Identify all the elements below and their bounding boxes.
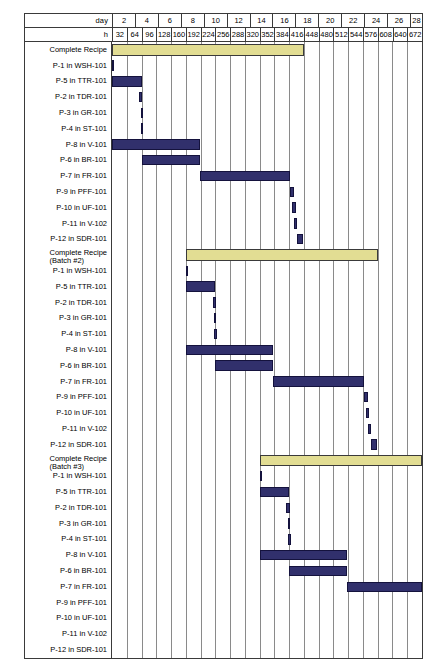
- task-bar[interactable]: [347, 582, 422, 592]
- day-tick-10: 10: [204, 14, 227, 27]
- row-label: P-6 in BR-101: [60, 563, 107, 579]
- summary-bar[interactable]: [186, 249, 378, 261]
- day-tick-2: 2: [112, 14, 135, 27]
- hour-tick-192: 192: [186, 28, 201, 41]
- task-bar[interactable]: [368, 424, 372, 434]
- gantt-row-label-cell: P-8 in V-101: [25, 342, 111, 358]
- gantt-row: [112, 389, 422, 405]
- task-bar[interactable]: [288, 518, 290, 528]
- gantt-row: [112, 216, 422, 232]
- gantt-row: [112, 137, 422, 153]
- summary-bar[interactable]: [260, 455, 422, 467]
- hour-tick-160: 160: [171, 28, 186, 41]
- task-bar[interactable]: [366, 408, 370, 418]
- day-tick-14: 14: [250, 14, 273, 27]
- row-label: P-4 in ST-101: [61, 326, 107, 342]
- hour-tick-448: 448: [304, 28, 319, 41]
- hour-tick-544: 544: [348, 28, 363, 41]
- row-label: P-11 in V-102: [62, 421, 107, 437]
- gantt-row: [112, 611, 422, 627]
- gantt-row: [112, 468, 422, 484]
- day-tick-18: 18: [295, 14, 318, 27]
- hour-tick-640: 640: [393, 28, 408, 41]
- hour-tick-224: 224: [201, 28, 216, 41]
- row-label: P-1 in WSH-101: [53, 468, 107, 484]
- row-label: P-10 in UF-101: [56, 200, 107, 216]
- row-label: P-8 in V-101: [66, 342, 107, 358]
- gantt-row: [112, 326, 422, 342]
- gantt-row: [112, 153, 422, 169]
- gantt-row-label-cell: P-2 in TDR-101: [25, 295, 111, 311]
- row-label: P-1 in WSH-101: [53, 263, 107, 279]
- day-tick-24: 24: [364, 14, 387, 27]
- task-bar[interactable]: [186, 266, 188, 276]
- row-label: P-4 in ST-101: [61, 121, 107, 137]
- gantt-row: [112, 374, 422, 390]
- gantt-row: [112, 421, 422, 437]
- day-tick-cells: 246810121416182022242628: [112, 14, 422, 27]
- gantt-header: day 246810121416182022242628 h 326496128…: [25, 14, 422, 42]
- task-bar[interactable]: [214, 329, 217, 339]
- gantt-row-label-cell: P-8 in V-101: [25, 547, 111, 563]
- task-bar[interactable]: [141, 123, 144, 133]
- hour-tick-32: 32: [112, 28, 127, 41]
- task-bar[interactable]: [364, 392, 368, 402]
- gantt-row: [112, 263, 422, 279]
- day-axis-label: day: [25, 14, 112, 27]
- gantt-row-label-cell: P-9 in PFF-101: [25, 389, 111, 405]
- hour-tick-128: 128: [156, 28, 171, 41]
- task-bar[interactable]: [213, 297, 217, 307]
- hour-tick-416: 416: [289, 28, 304, 41]
- task-bar[interactable]: [214, 313, 216, 323]
- gantt-row: [112, 532, 422, 548]
- gantt-row: [112, 232, 422, 248]
- gantt-row-label-cell: Complete Recipe(Batch #3): [25, 453, 111, 469]
- task-bar[interactable]: [141, 108, 143, 118]
- gantt-row: [112, 168, 422, 184]
- row-label: P-2 in TDR-101: [55, 500, 107, 516]
- task-bar[interactable]: [260, 471, 262, 481]
- task-bar[interactable]: [112, 60, 114, 70]
- task-bar[interactable]: [142, 155, 200, 165]
- gantt-row-label-cell: Complete Recipe: [25, 42, 111, 58]
- gantt-row: [112, 184, 422, 200]
- task-bar[interactable]: [371, 439, 377, 449]
- hour-tick-512: 512: [333, 28, 348, 41]
- task-bar[interactable]: [290, 187, 294, 197]
- task-bar[interactable]: [186, 345, 274, 355]
- summary-bar[interactable]: [112, 44, 304, 56]
- gantt-row: [112, 595, 422, 611]
- task-bar[interactable]: [288, 534, 291, 544]
- gantt-row-label-cell: P-5 in TTR-101: [25, 484, 111, 500]
- gantt-row-label-cell: P-3 in GR-101: [25, 516, 111, 532]
- task-bar[interactable]: [260, 487, 290, 497]
- row-label: P-3 in GR-101: [59, 516, 107, 532]
- task-bar[interactable]: [286, 503, 290, 513]
- task-bar[interactable]: [260, 550, 348, 560]
- task-bar[interactable]: [292, 202, 296, 212]
- task-bar[interactable]: [294, 218, 298, 228]
- task-bar[interactable]: [289, 566, 347, 576]
- task-bar[interactable]: [186, 281, 216, 291]
- task-bar[interactable]: [297, 234, 303, 244]
- gantt-row-label-cell: P-12 in SDR-101: [25, 232, 111, 248]
- row-label: P-5 in TTR-101: [56, 484, 107, 500]
- gantt-row: [112, 563, 422, 579]
- gantt-row-label-cell: P-11 in V-102: [25, 626, 111, 642]
- task-bar[interactable]: [112, 139, 200, 149]
- hour-tick-384: 384: [274, 28, 289, 41]
- task-bar[interactable]: [139, 92, 143, 102]
- row-label: P-11 in V-102: [62, 216, 107, 232]
- gantt-row: [112, 437, 422, 453]
- day-tick-6: 6: [158, 14, 181, 27]
- gantt-row: [112, 484, 422, 500]
- gantt-row: [112, 42, 422, 58]
- gantt-row: [112, 579, 422, 595]
- task-bar[interactable]: [112, 76, 142, 86]
- gantt-row-label-cell: Complete Recipe(Batch #2): [25, 247, 111, 263]
- task-bar[interactable]: [215, 360, 273, 370]
- gantt-row-label-cell: P-5 in TTR-101: [25, 74, 111, 90]
- hour-tick-256: 256: [215, 28, 230, 41]
- task-bar[interactable]: [200, 171, 290, 181]
- task-bar[interactable]: [273, 376, 363, 386]
